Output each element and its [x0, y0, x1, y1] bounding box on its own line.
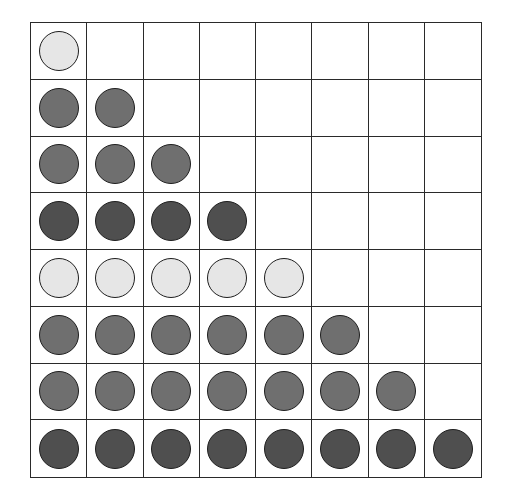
- grid-cell: [200, 137, 256, 194]
- grid-cell: [200, 23, 256, 80]
- circle-medium-icon: [207, 315, 247, 355]
- grid-cell: [425, 80, 481, 137]
- grid-cell: [369, 23, 425, 80]
- circle-medium-icon: [376, 371, 416, 411]
- grid-cell: [312, 80, 368, 137]
- circle-medium-icon: [320, 315, 360, 355]
- grid-cell: [425, 137, 481, 194]
- grid-cell: [312, 137, 368, 194]
- circle-light-icon: [39, 31, 79, 71]
- circle-light-icon: [95, 258, 135, 298]
- circle-light-icon: [264, 258, 304, 298]
- grid-cell: [369, 307, 425, 364]
- circle-light-icon: [207, 258, 247, 298]
- circle-dark-icon: [39, 429, 79, 469]
- circle-medium-icon: [39, 315, 79, 355]
- grid-cell: [256, 193, 312, 250]
- circle-medium-icon: [39, 371, 79, 411]
- grid-cell: [144, 420, 200, 477]
- circle-dark-icon: [207, 201, 247, 241]
- grid-cell: [144, 307, 200, 364]
- grid-cell: [312, 364, 368, 421]
- grid-cell: [369, 364, 425, 421]
- grid-cell: [256, 137, 312, 194]
- grid-cell: [31, 307, 87, 364]
- grid-cell: [425, 364, 481, 421]
- grid-cell: [425, 23, 481, 80]
- circle-medium-icon: [95, 371, 135, 411]
- grid-cell: [31, 250, 87, 307]
- circle-medium-icon: [151, 371, 191, 411]
- grid-cell: [144, 137, 200, 194]
- circle-dark-icon: [264, 429, 304, 469]
- circle-dark-icon: [39, 201, 79, 241]
- grid-cell: [425, 307, 481, 364]
- grid-cell: [144, 193, 200, 250]
- grid-cell: [312, 193, 368, 250]
- circle-medium-icon: [151, 315, 191, 355]
- grid-cell: [256, 307, 312, 364]
- grid-cell: [87, 137, 143, 194]
- dot-grid: [30, 22, 482, 478]
- grid-cell: [256, 23, 312, 80]
- circle-medium-icon: [95, 315, 135, 355]
- grid-cell: [31, 80, 87, 137]
- grid-cell: [87, 80, 143, 137]
- circle-medium-icon: [39, 88, 79, 128]
- circle-medium-icon: [207, 371, 247, 411]
- grid-cell: [425, 420, 481, 477]
- grid-cell: [256, 250, 312, 307]
- grid-cell: [200, 420, 256, 477]
- grid-cell: [425, 193, 481, 250]
- circle-medium-icon: [264, 315, 304, 355]
- circle-dark-icon: [207, 429, 247, 469]
- grid-cell: [200, 80, 256, 137]
- grid-cell: [31, 193, 87, 250]
- circle-dark-icon: [151, 201, 191, 241]
- circle-medium-icon: [151, 144, 191, 184]
- circle-medium-icon: [320, 371, 360, 411]
- grid-cell: [87, 364, 143, 421]
- grid-cell: [87, 307, 143, 364]
- grid-cell: [369, 137, 425, 194]
- grid-cell: [31, 364, 87, 421]
- circle-light-icon: [39, 258, 79, 298]
- circle-medium-icon: [95, 144, 135, 184]
- grid-cell: [144, 364, 200, 421]
- grid-cell: [200, 250, 256, 307]
- grid-cell: [144, 23, 200, 80]
- grid-cell: [256, 420, 312, 477]
- grid-cell: [87, 193, 143, 250]
- circle-dark-icon: [95, 429, 135, 469]
- grid-cell: [256, 80, 312, 137]
- grid-cell: [425, 250, 481, 307]
- circle-light-icon: [151, 258, 191, 298]
- grid-cell: [87, 420, 143, 477]
- circle-medium-icon: [264, 371, 304, 411]
- grid-cell: [200, 364, 256, 421]
- grid-cell: [144, 250, 200, 307]
- grid-cell: [256, 364, 312, 421]
- circle-dark-icon: [95, 201, 135, 241]
- grid-cell: [312, 307, 368, 364]
- grid-cell: [312, 420, 368, 477]
- grid-cell: [200, 193, 256, 250]
- circle-dark-icon: [151, 429, 191, 469]
- grid-cell: [31, 23, 87, 80]
- circle-dark-icon: [376, 429, 416, 469]
- grid-cell: [369, 80, 425, 137]
- grid-cell: [31, 137, 87, 194]
- circle-dark-icon: [320, 429, 360, 469]
- circle-dark-icon: [433, 429, 473, 469]
- grid-cell: [369, 250, 425, 307]
- grid-cell: [87, 250, 143, 307]
- grid-cell: [312, 23, 368, 80]
- grid-cell: [144, 80, 200, 137]
- grid-cell: [200, 307, 256, 364]
- grid-cell: [369, 193, 425, 250]
- circle-medium-icon: [39, 144, 79, 184]
- circle-medium-icon: [95, 88, 135, 128]
- grid-cell: [312, 250, 368, 307]
- grid-cell: [87, 23, 143, 80]
- grid-cell: [31, 420, 87, 477]
